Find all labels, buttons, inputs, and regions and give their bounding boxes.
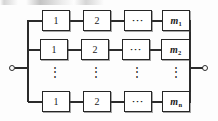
row1-wire-1-2 <box>70 20 83 22</box>
block-label: 2 <box>95 16 100 26</box>
block-label-subscript: 1 <box>179 20 182 27</box>
row1-wire-3-4 <box>152 20 162 22</box>
right-bus-line <box>189 20 191 102</box>
block-row3-col3: ··· <box>124 91 152 112</box>
left-terminal-node <box>9 65 15 71</box>
row2-wire-3-4 <box>150 49 161 51</box>
block-label: 1 <box>54 16 59 26</box>
row2-wire-left <box>28 49 40 51</box>
block-row3-col4: mn <box>162 91 190 112</box>
block-label: m1 <box>170 16 181 26</box>
left-terminal-lead <box>15 67 28 69</box>
block-row2-col4: m2 <box>161 39 190 60</box>
vertical-ellipsis-col1: ⋮ <box>49 66 59 78</box>
block-label: 2 <box>95 97 100 107</box>
row1-wire-left <box>28 20 42 22</box>
block-label: 2 <box>93 45 98 55</box>
block-row2-col3: ··· <box>122 39 150 60</box>
row2-wire-1-2 <box>68 49 81 51</box>
block-row2-col2: 2 <box>81 39 109 60</box>
block-label: 1 <box>52 45 57 55</box>
row3-wire-1-2 <box>70 101 83 103</box>
block-row3-col1: 1 <box>42 91 70 112</box>
left-bus-line <box>27 20 29 102</box>
block-row3-col2: 2 <box>83 91 111 112</box>
row1-wire-2-3 <box>111 20 124 22</box>
block-row1-col4: m1 <box>162 10 190 31</box>
block-label-base: m <box>170 96 178 107</box>
vertical-ellipsis-col4: ⋮ <box>170 66 180 78</box>
block-label: ··· <box>132 16 144 25</box>
row3-wire-3-4 <box>152 101 162 103</box>
right-terminal-node <box>202 65 208 71</box>
block-label: ··· <box>130 45 142 54</box>
block-row2-col1: 1 <box>40 39 68 60</box>
block-label: 1 <box>54 97 59 107</box>
block-row1-col2: 2 <box>83 10 111 31</box>
row2-wire-2-3 <box>109 49 122 51</box>
block-label: ··· <box>132 97 144 106</box>
block-row1-col1: 1 <box>42 10 70 31</box>
vertical-ellipsis-col3: ⋮ <box>131 66 141 78</box>
row3-wire-left <box>28 101 42 103</box>
block-row1-col3: ··· <box>124 10 152 31</box>
scan-artifact <box>0 0 218 5</box>
block-label: mn <box>170 97 181 107</box>
block-label-subscript: 2 <box>178 49 181 56</box>
block-label: m2 <box>170 45 181 55</box>
reliability-block-diagram: 1 2 ··· m1 1 2 ··· m2 ⋮ ⋮ ⋮ ⋮ 1 2 ··· <box>0 0 218 121</box>
block-label-base: m <box>170 44 178 55</box>
vertical-ellipsis-col2: ⋮ <box>90 66 100 78</box>
block-label-base: m <box>170 15 178 26</box>
row3-wire-2-3 <box>111 101 124 103</box>
block-label-subscript: n <box>178 101 182 108</box>
